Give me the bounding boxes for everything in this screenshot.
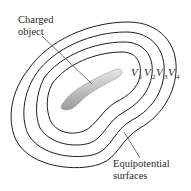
svg-text:V: V <box>131 66 139 78</box>
potential-label-v4: V 4 <box>168 66 180 81</box>
svg-text:V: V <box>156 66 164 78</box>
potential-label-v1: V 1 <box>131 66 143 81</box>
charged-object-label-line1: Charged <box>18 14 54 25</box>
potential-label-v3: V 3 <box>156 66 168 81</box>
equipotential-leader <box>124 132 140 158</box>
equipotential-diagram: Charged object Equipotential surfaces V … <box>0 0 191 191</box>
equipotential-label-line1: Equipotential <box>113 158 170 169</box>
equipotential-contour-v4 <box>11 22 176 168</box>
potential-label-v2: V 2 <box>144 66 156 81</box>
equipotential-label-line2: surfaces <box>113 170 147 181</box>
equipotential-contour-v1 <box>47 52 140 133</box>
svg-text:V: V <box>168 66 176 78</box>
equipotential-contour-v2 <box>37 42 153 145</box>
svg-text:4: 4 <box>176 73 180 81</box>
charged-object-label-line2: object <box>18 26 44 37</box>
svg-text:1: 1 <box>139 73 143 81</box>
svg-text:V: V <box>144 66 152 78</box>
